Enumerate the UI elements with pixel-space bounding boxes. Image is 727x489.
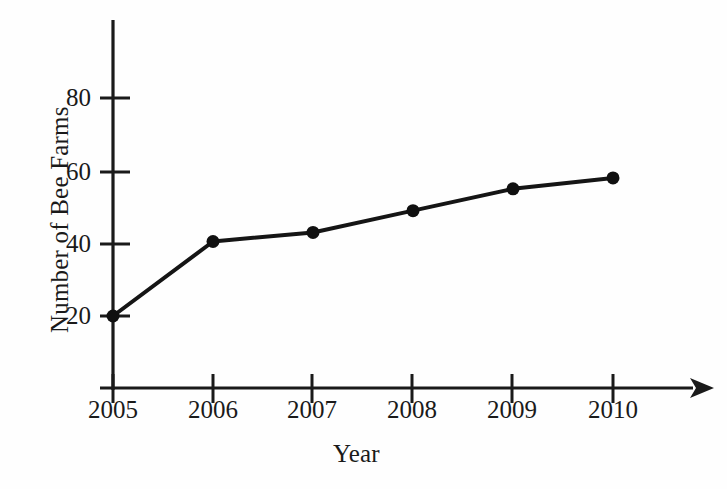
data-point-2009: [507, 182, 520, 195]
data-point-2006: [207, 235, 220, 248]
data-point-2010: [607, 171, 620, 184]
x-tick-label-2007: 2007: [267, 396, 357, 424]
y-tick-label-60: 60: [31, 158, 91, 186]
data-point-2005: [107, 310, 120, 323]
line-chart: Number of Bee Farms Year 80 60 40 20 200…: [0, 0, 727, 489]
x-tick-label-2010: 2010: [568, 396, 658, 424]
y-axis-title: Number of Bee Farms: [46, 106, 74, 333]
x-axis-arrowhead: [690, 378, 714, 398]
y-tick-label-20: 20: [31, 302, 91, 330]
x-tick-label-2008: 2008: [367, 396, 457, 424]
data-point-2008: [407, 204, 420, 217]
y-tick-label-80: 80: [31, 84, 91, 112]
x-tick-label-2005: 2005: [68, 396, 158, 424]
x-axis-title: Year: [333, 440, 380, 468]
y-tick-label-40: 40: [31, 230, 91, 258]
x-tick-label-2009: 2009: [467, 396, 557, 424]
data-point-2007: [307, 226, 320, 239]
data-series-line: [113, 178, 613, 316]
x-tick-label-2006: 2006: [168, 396, 258, 424]
data-point-markers: [107, 171, 620, 322]
